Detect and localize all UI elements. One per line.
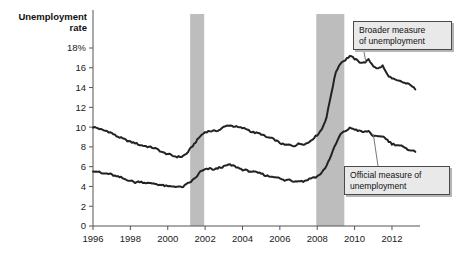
x-tick-label: 2010 — [344, 233, 365, 244]
broader-measure-callout: Broader measure of unemployment — [353, 21, 452, 50]
y-tick-label: 8 — [81, 141, 86, 152]
broader-callout-leader-line — [364, 52, 366, 62]
chart-container: 024681012141618%199619982000200220042006… — [0, 0, 474, 254]
recession-2008-band — [316, 14, 344, 226]
chart-title-line1: Unemployment — [18, 11, 87, 22]
x-tick-label: 2006 — [269, 233, 290, 244]
x-tick-label: 1998 — [120, 233, 141, 244]
series-line-broader — [93, 56, 415, 158]
y-tick-label: 18% — [67, 42, 87, 53]
x-tick-label: 2000 — [157, 233, 178, 244]
y-tick-label: 6 — [81, 161, 86, 172]
y-tick-label: 4 — [81, 181, 86, 192]
x-tick-label: 2012 — [381, 233, 402, 244]
y-tick-label: 16 — [75, 62, 86, 73]
x-tick-label: 2008 — [307, 233, 328, 244]
x-tick-label: 2004 — [232, 233, 253, 244]
official-callout-leader-line — [373, 134, 378, 166]
recession-2001-band — [190, 14, 204, 226]
y-tick-label: 2 — [81, 201, 86, 212]
official-measure-callout: Official measure of unemployment — [344, 166, 450, 195]
y-tick-label: 12 — [75, 102, 86, 113]
y-tick-label: 14 — [75, 82, 86, 93]
x-tick-label: 2002 — [195, 233, 216, 244]
y-tick-label: 10 — [75, 122, 86, 133]
chart-title-line2: rate — [70, 22, 87, 33]
y-tick-label: 0 — [81, 220, 86, 231]
x-tick-label: 1996 — [82, 233, 103, 244]
